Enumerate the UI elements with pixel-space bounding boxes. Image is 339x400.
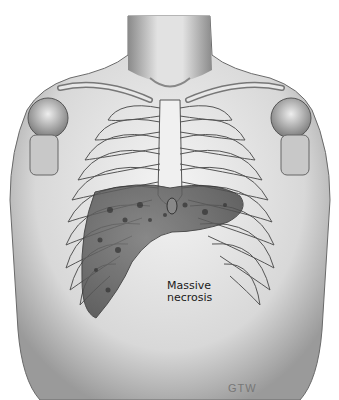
- gallbladder: [167, 198, 177, 214]
- torso-illustration: [0, 0, 339, 400]
- annotation-label: Massive necrosis: [167, 280, 212, 304]
- neck: [128, 16, 212, 83]
- left-humeral-head: [28, 98, 68, 138]
- annotation-line-2: necrosis: [167, 292, 212, 304]
- right-humeral-head: [271, 98, 311, 138]
- artist-signature: GTW: [228, 382, 257, 394]
